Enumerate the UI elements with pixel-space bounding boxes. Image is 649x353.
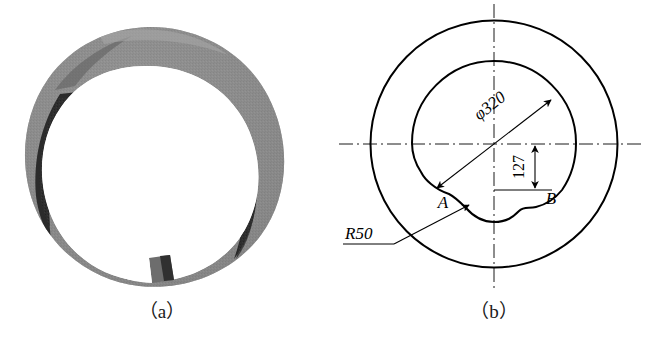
height-label: 127 [510,155,527,179]
height-label-group: 127 [510,155,527,179]
figure-container: （a） φ320 [0,0,649,353]
ring-dimensioned-drawing: φ320 127 R50 A B （b） [325,0,649,353]
panel-b-drawing: φ320 127 R50 A B （b） [325,0,649,353]
point-label-b: B [546,189,557,208]
radius-label: R50 [344,224,373,243]
ring-photograph: （a） [0,0,325,353]
diameter-label-group: φ320 [470,87,510,124]
caption-b: （b） [470,301,518,322]
diameter-label: φ320 [470,87,510,124]
point-label-a: A [437,193,449,212]
panel-a-photograph: （a） [0,0,325,353]
radius-leader-line [394,205,469,244]
ring-inner-hole [42,66,259,282]
caption-a: （a） [139,301,185,322]
